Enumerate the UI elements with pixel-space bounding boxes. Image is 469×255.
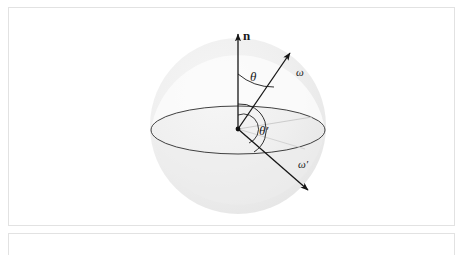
footer-panel (8, 233, 455, 255)
outgoing-direction-label: ω′ (298, 158, 309, 170)
hemisphere-geometry-diagram: n ω ω′ θ θ′ (9, 8, 456, 227)
figure-stage: n ω ω′ θ θ′ (9, 8, 456, 227)
incident-direction-label: ω (296, 66, 304, 78)
origin-point (236, 127, 241, 132)
normal-vector-label: n (243, 28, 251, 43)
theta-angle-label: θ (250, 69, 257, 84)
figure-panel: n ω ω′ θ θ′ (8, 7, 455, 226)
theta-prime-angle-label: θ′ (259, 123, 268, 138)
